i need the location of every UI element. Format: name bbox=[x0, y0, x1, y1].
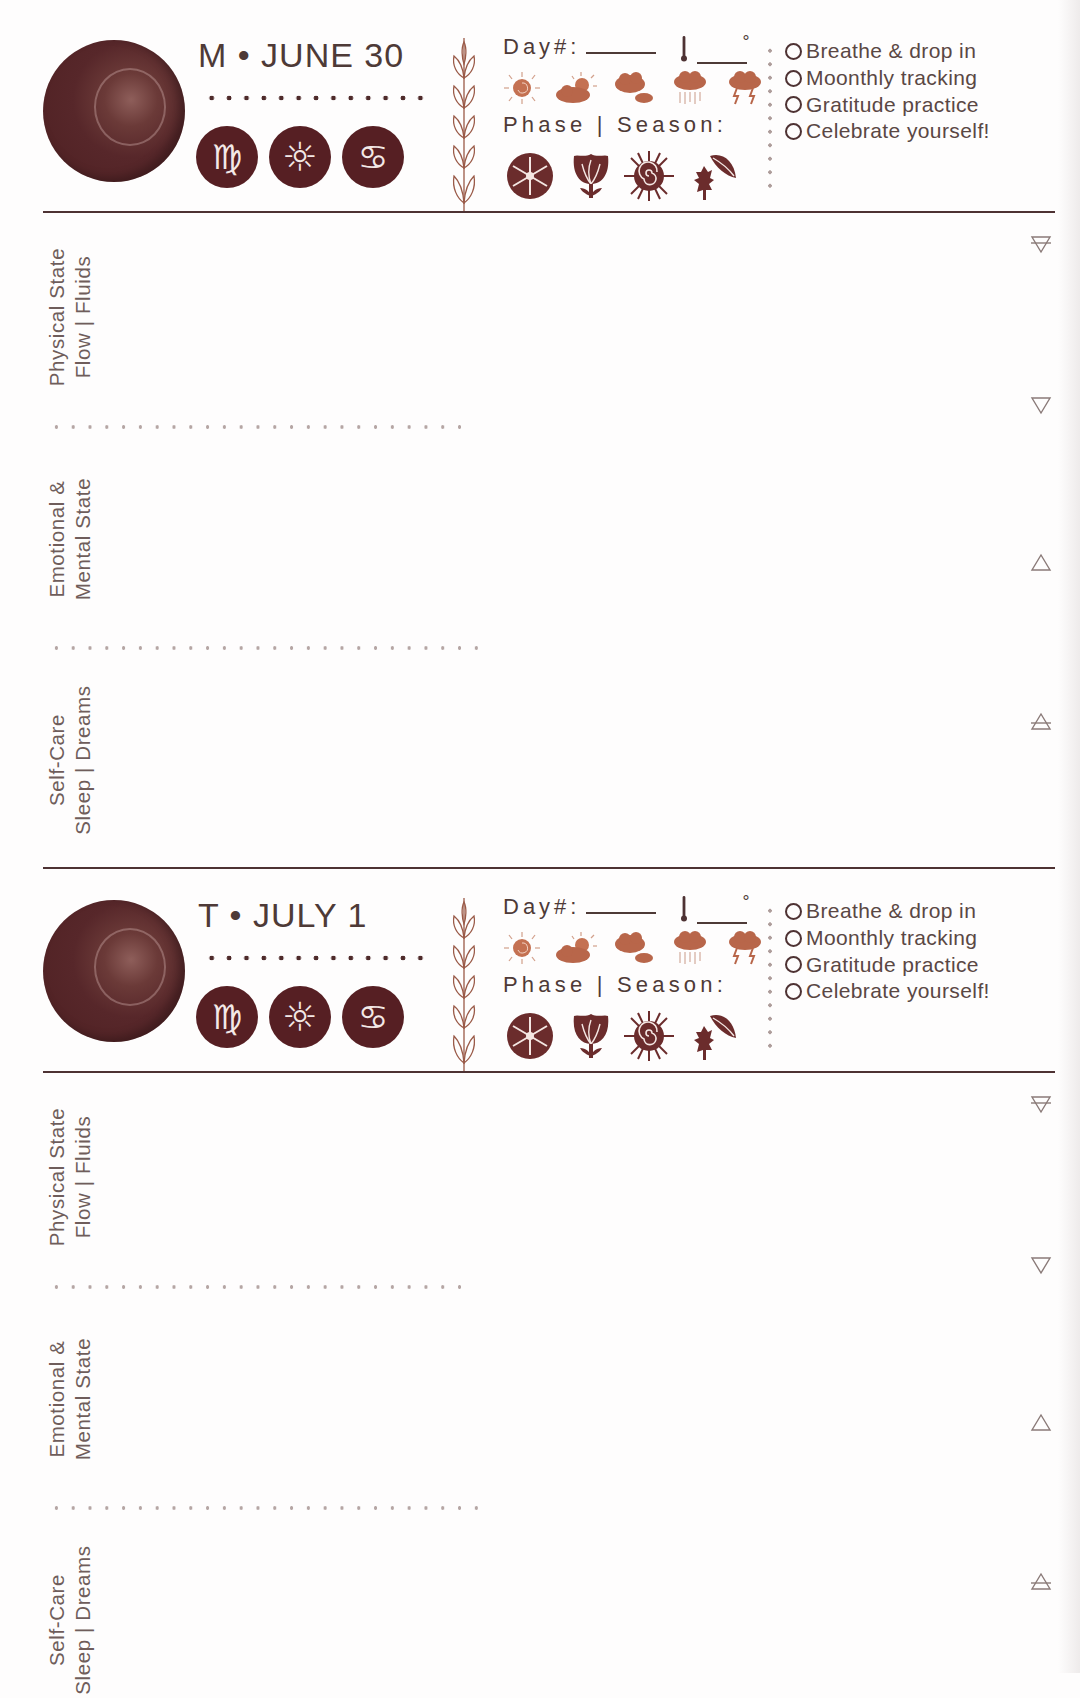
virgo-icon: ♍ bbox=[196, 126, 258, 188]
spring-tulip-icon[interactable] bbox=[566, 150, 616, 202]
moon-phase-icon bbox=[43, 900, 185, 1042]
checklist-item-gratitude[interactable]: Gratitude practice bbox=[785, 951, 990, 978]
checkbox-circle-icon[interactable] bbox=[785, 43, 802, 60]
section-label-line1: Self-Care bbox=[44, 672, 70, 848]
temperature-blank[interactable] bbox=[697, 60, 747, 64]
temperature-blank[interactable] bbox=[697, 920, 747, 924]
degree-symbol: ° bbox=[742, 892, 750, 911]
section-label-line2: Mental State bbox=[70, 1321, 96, 1477]
section-label-line2: Sleep | Dreams bbox=[70, 672, 96, 848]
summer-sun-icon[interactable] bbox=[624, 1010, 674, 1062]
section-label-line2: Flow | Fluids bbox=[70, 232, 96, 402]
section-dotted-divider bbox=[48, 425, 468, 429]
checklist-item-label: Gratitude practice bbox=[806, 953, 979, 977]
wheat-stalk-icon bbox=[448, 38, 480, 212]
section-dotted-divider bbox=[48, 1285, 468, 1289]
day-date-heading: T • JULY 1 bbox=[198, 896, 428, 935]
day-date-heading: M • JUNE 30 bbox=[198, 36, 428, 75]
checklist-item-label: Breathe & drop in bbox=[806, 39, 976, 63]
daily-checklist: Breathe & drop in Moonthly tracking Grat… bbox=[785, 898, 990, 1005]
cancer-icon: ♋ bbox=[342, 986, 404, 1048]
spring-tulip-icon[interactable] bbox=[566, 1010, 616, 1062]
day-number-blank[interactable] bbox=[586, 50, 656, 54]
section-label-physical: Physical State Flow | Fluids bbox=[44, 232, 96, 402]
section-label-line1: Self-Care bbox=[44, 1532, 70, 1698]
checklist-item-moonthly-tracking[interactable]: Moonthly tracking bbox=[785, 65, 990, 92]
checklist-item-label: Celebrate yourself! bbox=[806, 119, 990, 143]
section-label-self-care: Self-Care Sleep | Dreams bbox=[44, 1532, 96, 1698]
day-number-blank[interactable] bbox=[586, 910, 656, 914]
section-dotted-divider bbox=[48, 1506, 483, 1510]
checklist-item-breathe[interactable]: Breathe & drop in bbox=[785, 898, 990, 925]
day-number-label: Day#: bbox=[503, 894, 580, 919]
air-element-icon bbox=[1030, 1572, 1052, 1592]
checkbox-circle-icon[interactable] bbox=[785, 983, 802, 1000]
section-label-emotional: Emotional & Mental State bbox=[44, 461, 96, 617]
checkbox-circle-icon[interactable] bbox=[785, 96, 802, 113]
checklist-item-label: Moonthly tracking bbox=[806, 66, 977, 90]
autumn-leaves-icon[interactable] bbox=[690, 1010, 740, 1062]
summer-sun-icon[interactable] bbox=[624, 150, 674, 202]
sunny-icon[interactable] bbox=[500, 70, 544, 106]
cancer-icon: ♋ bbox=[342, 126, 404, 188]
section-label-line1: Physical State bbox=[44, 1092, 70, 1262]
fire-element-icon bbox=[1030, 1413, 1052, 1433]
thermometer-icon bbox=[681, 36, 687, 62]
header-rule bbox=[43, 211, 1055, 213]
wheat-stalk-icon bbox=[448, 898, 480, 1072]
phase-season-label: Phase | Season: bbox=[503, 972, 727, 998]
checkbox-circle-icon[interactable] bbox=[785, 70, 802, 87]
sunny-icon[interactable] bbox=[500, 930, 544, 966]
checklist-item-label: Moonthly tracking bbox=[806, 926, 977, 950]
checklist-item-breathe[interactable]: Breathe & drop in bbox=[785, 38, 990, 65]
checkbox-circle-icon[interactable] bbox=[785, 930, 802, 947]
partly-cloudy-icon[interactable] bbox=[553, 70, 597, 106]
winter-snowflake-icon[interactable] bbox=[505, 150, 555, 202]
section-label-line1: Emotional & bbox=[44, 461, 70, 617]
section-label-line2: Sleep | Dreams bbox=[70, 1532, 96, 1698]
checklist-item-label: Gratitude practice bbox=[806, 93, 979, 117]
section-label-line1: Emotional & bbox=[44, 1321, 70, 1477]
section-label-self-care: Self-Care Sleep | Dreams bbox=[44, 672, 96, 848]
section-dotted-divider bbox=[48, 646, 483, 650]
earth-element-icon bbox=[1030, 1094, 1052, 1114]
cloudy-icon[interactable] bbox=[612, 70, 656, 106]
rain-icon[interactable] bbox=[668, 930, 712, 966]
degree-symbol: ° bbox=[742, 32, 750, 51]
checkbox-circle-icon[interactable] bbox=[785, 123, 802, 140]
vertical-dotted-divider bbox=[767, 44, 773, 194]
thunderstorm-icon[interactable] bbox=[723, 930, 767, 966]
dotted-divider bbox=[203, 955, 428, 961]
partly-cloudy-icon[interactable] bbox=[553, 930, 597, 966]
checkbox-circle-icon[interactable] bbox=[785, 903, 802, 920]
phase-season-label: Phase | Season: bbox=[503, 112, 727, 138]
header-rule bbox=[43, 1071, 1055, 1073]
rain-icon[interactable] bbox=[668, 70, 712, 106]
sun-icon: ☼ bbox=[269, 126, 331, 188]
winter-snowflake-icon[interactable] bbox=[505, 1010, 555, 1062]
day-number-label: Day#: bbox=[503, 34, 580, 59]
section-label-line2: Flow | Fluids bbox=[70, 1092, 96, 1262]
section-label-physical: Physical State Flow | Fluids bbox=[44, 1092, 96, 1262]
water-element-icon bbox=[1030, 395, 1052, 415]
checklist-item-celebrate[interactable]: Celebrate yourself! bbox=[785, 978, 990, 1005]
checklist-item-moonthly-tracking[interactable]: Moonthly tracking bbox=[785, 925, 990, 952]
checklist-item-gratitude[interactable]: Gratitude practice bbox=[785, 91, 990, 118]
earth-element-icon bbox=[1030, 234, 1052, 254]
section-label-line2: Mental State bbox=[70, 461, 96, 617]
day-entry: M • JUNE 30 ♍ ☼ ♋ Day#: bbox=[0, 0, 1080, 860]
sun-icon: ☼ bbox=[269, 986, 331, 1048]
vertical-dotted-divider bbox=[767, 904, 773, 1054]
section-label-line1: Physical State bbox=[44, 232, 70, 402]
autumn-leaves-icon[interactable] bbox=[690, 150, 740, 202]
checkbox-circle-icon[interactable] bbox=[785, 956, 802, 973]
moon-phase-icon bbox=[43, 40, 185, 182]
day-number-field[interactable]: Day#: bbox=[503, 894, 656, 920]
virgo-icon: ♍ bbox=[196, 986, 258, 1048]
checklist-item-celebrate[interactable]: Celebrate yourself! bbox=[785, 118, 990, 145]
section-label-emotional: Emotional & Mental State bbox=[44, 1321, 96, 1477]
checklist-item-label: Breathe & drop in bbox=[806, 899, 976, 923]
cloudy-icon[interactable] bbox=[612, 930, 656, 966]
thunderstorm-icon[interactable] bbox=[723, 70, 767, 106]
day-number-field[interactable]: Day#: bbox=[503, 34, 656, 60]
